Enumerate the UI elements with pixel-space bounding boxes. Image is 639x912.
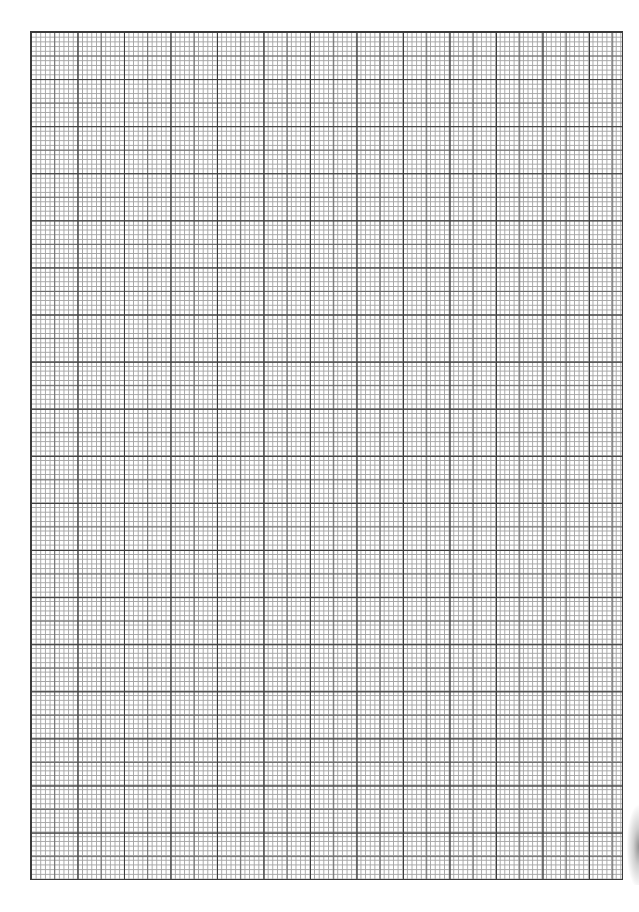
document-description: Blank millimeter graph paper sheet bbox=[31, 32, 32, 33]
graph-paper-grid: Blank millimeter graph paper sheet bbox=[30, 31, 623, 880]
scanned-page: Blank millimeter graph paper sheet bbox=[0, 0, 639, 912]
